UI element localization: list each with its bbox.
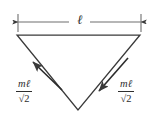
left-force-magnitude-label: mℓ √2 xyxy=(16,79,32,104)
right-force-numerator: mℓ xyxy=(118,79,134,91)
left-force-fraction-bar xyxy=(16,91,32,92)
right-force-magnitude-label: mℓ √2 xyxy=(118,79,134,104)
force-diagram-figure: ℓ mℓ √2 mℓ √2 xyxy=(0,0,157,122)
length-dimension-label: ℓ xyxy=(70,12,90,28)
left-force-fraction: mℓ √2 xyxy=(16,79,32,104)
left-force-numerator: mℓ xyxy=(16,79,32,91)
right-force-fraction-bar xyxy=(118,91,134,92)
left-force-denominator: √2 xyxy=(16,93,32,105)
left-force-vector-arrow xyxy=(33,62,62,90)
right-force-denominator: √2 xyxy=(118,93,134,105)
right-force-fraction: mℓ √2 xyxy=(118,79,134,104)
